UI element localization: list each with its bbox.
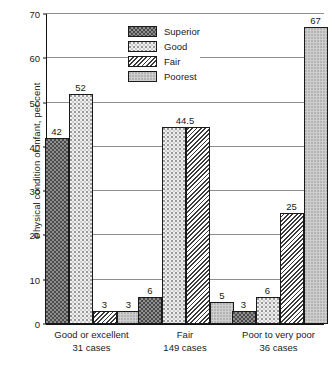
legend-label-superior: Superior (164, 26, 200, 37)
legend-swatch-good-icon (128, 41, 157, 52)
legend-label-good: Good (164, 41, 187, 52)
legend-label-poorest: Poorest (164, 71, 197, 82)
bar-group: 362567 (232, 14, 328, 324)
legend-item-superior: Superior (128, 26, 200, 37)
bar-value-label: 25 (286, 201, 297, 212)
bar-poorest[interactable]: 5 (210, 302, 234, 324)
legend-label-fair: Fair (164, 56, 180, 67)
bar-value-label: 6 (265, 285, 270, 296)
legend-item-poorest: Poorest (128, 71, 200, 82)
bar-value-label: 42 (51, 126, 62, 137)
legend-swatch-superior-icon (128, 26, 157, 37)
bar-group-bars: 362567 (232, 14, 328, 324)
bar-superior[interactable]: 6 (138, 297, 162, 324)
bar-good[interactable]: 44.5 (162, 127, 186, 324)
y-axis-title: Physical condition of infant, per cent (31, 41, 42, 281)
x-label-line2: 31 cases (54, 342, 128, 355)
bar-good[interactable]: 52 (69, 94, 93, 324)
bar-value-label: 3 (126, 299, 131, 310)
legend-item-good: Good (128, 41, 200, 52)
x-axis-group-label: Good or excellent31 cases (54, 329, 128, 354)
x-label-line2: 149 cases (163, 342, 206, 355)
chart-legend: Superior Good Fair Poorest (128, 26, 200, 82)
legend-swatch-poorest-icon (128, 71, 157, 82)
bar-fair[interactable] (186, 127, 210, 324)
bar-group-bars: 425233 (45, 14, 141, 324)
legend-item-fair: Fair (128, 56, 200, 67)
x-label-line1: Fair (177, 329, 193, 340)
bar-fair[interactable]: 25 (280, 213, 304, 324)
bar-value-label: 5 (219, 290, 224, 301)
bar-value-label: 6 (147, 285, 152, 296)
bar-value-label: 3 (102, 299, 107, 310)
bar-superior[interactable]: 3 (232, 311, 256, 324)
legend-swatch-fair-icon (128, 56, 157, 67)
bar-good[interactable]: 6 (256, 297, 280, 324)
x-label-line1: Good or excellent (54, 329, 128, 340)
bar-fair[interactable]: 3 (93, 311, 117, 324)
bar-poorest[interactable]: 67 (304, 27, 328, 324)
x-label-line2: 36 cases (242, 342, 315, 355)
bar-value-label: 52 (75, 82, 86, 93)
x-axis-group-label: Fair149 cases (163, 329, 206, 354)
x-label-line1: Poor to very poor (242, 329, 315, 340)
bar-poorest[interactable]: 3 (117, 311, 141, 324)
bar-value-label: 3 (241, 299, 246, 310)
bar-superior[interactable]: 42 (45, 138, 69, 324)
bar-group: 425233 (45, 14, 141, 324)
bar-value-label: 67 (310, 15, 321, 26)
bar-value-label: 44.5 (176, 115, 195, 126)
x-axis-labels: Good or excellent31 casesFair149 casesPo… (46, 329, 324, 363)
x-axis-group-label: Poor to very poor36 cases (242, 329, 315, 354)
bar-chart: Physical condition of infant, per cent 0… (0, 0, 335, 365)
